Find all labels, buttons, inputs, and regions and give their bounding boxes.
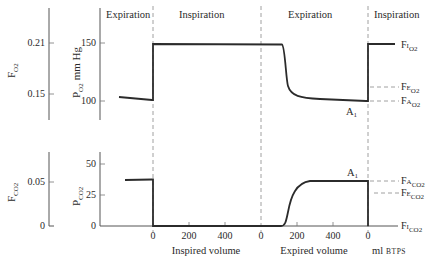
fco2-tick-0: 0 (40, 220, 45, 231)
expired-volume-label: Expired volume (280, 245, 348, 256)
inspired-volume-label: Inspired volume (172, 245, 241, 256)
fco2-axis-label: FCO2 (5, 182, 20, 202)
svg-text:FCO2: FCO2 (5, 182, 20, 202)
feco2-label: FECO2 (401, 187, 425, 201)
pco2-axis-label: PCO2 (70, 186, 85, 206)
x-tick-expired-200: 200 (290, 230, 305, 241)
x-tick-expired-400: 400 (326, 230, 341, 241)
pco2-axis: 50 25 0 PCO2 (70, 152, 398, 231)
pco2-curve (125, 180, 368, 227)
svg-text:PCO2: PCO2 (70, 186, 85, 206)
co2-a1-annotation: A1 (347, 167, 359, 180)
fo2-tick-015: 0.15 (28, 88, 46, 99)
fo2-axis-label: FO2 (5, 63, 20, 78)
po2-tick-150: 150 (81, 37, 96, 48)
svg-text:FO2: FO2 (5, 63, 20, 78)
x-tick-inspired-400: 400 (218, 230, 233, 241)
phase-label-inspiration-2: Inspiration (374, 9, 420, 20)
phase-label-inspiration-1: Inspiration (179, 9, 225, 20)
phase-label-expiration-2: Expiration (288, 9, 333, 20)
x-tick-expired-0: 0 (259, 230, 264, 241)
fao2-label: FAO2 (401, 95, 421, 109)
fo2-tick-021: 0.21 (28, 37, 46, 48)
fo2-axis: 0.21 0.15 FO2 (5, 8, 54, 120)
units-label: mlBTPS (372, 245, 406, 256)
fio2-label: FIO2 (401, 39, 418, 53)
po2-axis: 150 100 PO2mm Hg (70, 8, 105, 120)
fco2-tick-005: 0.05 (28, 176, 46, 187)
o2-a1-annotation: A1 (346, 106, 358, 119)
respiratory-gas-diagram: Expiration Inspiration Expiration Inspir… (0, 0, 439, 264)
po2-axis-label: PO2mm Hg (70, 47, 85, 98)
x-tick-inspired-0: 0 (151, 230, 156, 241)
phase-label-expiration-1: Expiration (106, 9, 151, 20)
svg-text:PO2mm Hg: PO2mm Hg (70, 47, 85, 98)
feo2-label: FEO2 (401, 81, 420, 95)
fico2-label: FICO2 (401, 220, 423, 234)
pco2-tick-25: 25 (86, 189, 96, 200)
x-tick-inspired-200: 200 (182, 230, 197, 241)
pco2-tick-50: 50 (86, 158, 96, 169)
pco2-tick-0: 0 (91, 220, 96, 231)
po2-tick-100: 100 (81, 95, 96, 106)
po2-curve (119, 44, 395, 101)
x-tick-end-0: 0 (366, 230, 371, 241)
fco2-axis: 0.05 0 FCO2 (5, 152, 54, 231)
